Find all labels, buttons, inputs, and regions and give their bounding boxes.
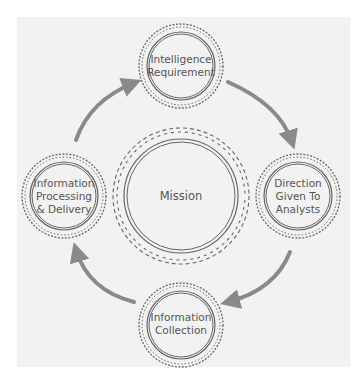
node-label-line: Intelligence: [147, 53, 215, 66]
node-label-line: Collection: [151, 324, 212, 337]
node-top-label: Intelligence Requirement: [147, 53, 215, 79]
center-label: Mission: [160, 190, 203, 203]
node-label-line: Information: [151, 311, 212, 324]
node-label-line: Requirement: [147, 66, 215, 79]
arrow-bottom-to-left: [76, 250, 134, 302]
arrow-right-to-bottom: [228, 252, 290, 302]
node-label-line: Direction: [274, 177, 321, 190]
node-label-line: & Delivery: [34, 203, 95, 216]
node-label-line: Processing: [34, 190, 95, 203]
center-label-text: Mission: [160, 190, 203, 203]
node-left-label: Information Processing & Delivery: [34, 177, 95, 216]
node-label-line: Analysts: [274, 203, 321, 216]
node-bottom-label: Information Collection: [151, 311, 212, 337]
node-right-label: Direction Given To Analysts: [274, 177, 321, 216]
node-label-line: Information: [34, 177, 95, 190]
node-label-line: Given To: [274, 190, 321, 203]
arrow-left-to-top: [76, 83, 134, 140]
arrow-top-to-right: [228, 82, 292, 142]
